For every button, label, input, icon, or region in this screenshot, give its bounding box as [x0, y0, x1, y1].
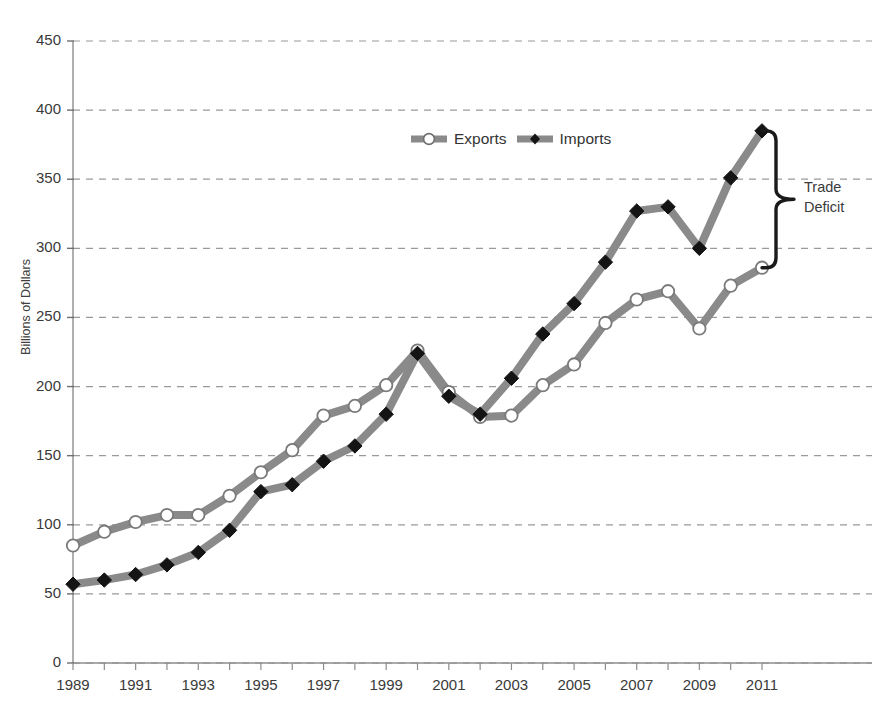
series-line-exports — [73, 268, 762, 546]
y-tick-label: 350 — [19, 169, 61, 186]
x-tick-label: 2001 — [419, 676, 479, 693]
legend-swatch-imports-icon — [516, 131, 554, 147]
x-tick-label: 2005 — [544, 676, 604, 693]
x-tick-label: 2007 — [607, 676, 667, 693]
y-tick-label: 50 — [19, 584, 61, 601]
x-tick-label: 1991 — [106, 676, 166, 693]
y-tick-label: 300 — [19, 238, 61, 255]
y-tick-label: 400 — [19, 100, 61, 117]
trade-deficit-line1: Trade — [804, 177, 884, 197]
legend-item-exports: Exports — [410, 130, 507, 148]
trade-deficit-annotation: Trade Deficit — [804, 177, 884, 217]
data-point-exports — [724, 279, 736, 291]
chart-page: Billions of Dollars Exports Imports Trad… — [0, 0, 886, 722]
data-point-exports — [568, 358, 580, 370]
y-tick-label: 250 — [19, 307, 61, 324]
data-point-exports — [537, 379, 549, 391]
data-point-exports — [599, 317, 611, 329]
y-tick-label: 0 — [19, 653, 61, 670]
data-point-exports — [129, 516, 141, 528]
x-tick-label: 1989 — [43, 676, 103, 693]
data-point-exports — [693, 322, 705, 334]
y-tick-label: 450 — [19, 31, 61, 48]
trade-chart: Billions of Dollars Exports Imports Trad… — [0, 0, 886, 722]
trade-deficit-line2: Deficit — [804, 197, 884, 217]
data-point-exports — [505, 409, 517, 421]
data-point-exports — [631, 293, 643, 305]
data-point-exports — [662, 285, 674, 297]
chart-legend: Exports Imports — [410, 130, 611, 148]
data-point-exports — [98, 525, 110, 537]
y-tick-label: 150 — [19, 446, 61, 463]
data-point-imports — [97, 573, 111, 587]
data-point-exports — [161, 509, 173, 521]
x-tick-label: 1999 — [356, 676, 416, 693]
legend-swatch-exports-icon — [410, 131, 448, 147]
data-point-exports — [317, 409, 329, 421]
y-tick-label: 200 — [19, 377, 61, 394]
trade-deficit-brace-icon — [762, 131, 794, 268]
legend-label-imports: Imports — [560, 130, 612, 148]
data-point-exports — [255, 466, 267, 478]
data-point-imports — [66, 577, 80, 591]
legend-label-exports: Exports — [454, 130, 507, 148]
x-tick-label: 1997 — [294, 676, 354, 693]
x-tick-label: 1995 — [231, 676, 291, 693]
data-point-exports — [286, 444, 298, 456]
data-point-exports — [380, 379, 392, 391]
x-tick-label: 1993 — [168, 676, 228, 693]
data-point-exports — [192, 509, 204, 521]
x-tick-label: 2009 — [669, 676, 729, 693]
x-tick-label: 2011 — [732, 676, 792, 693]
data-point-exports — [67, 539, 79, 551]
x-tick-label: 2003 — [481, 676, 541, 693]
y-tick-label: 100 — [19, 515, 61, 532]
chart-plot-svg — [0, 0, 886, 722]
legend-item-imports: Imports — [516, 130, 612, 148]
data-point-exports — [349, 400, 361, 412]
data-point-exports — [223, 490, 235, 502]
